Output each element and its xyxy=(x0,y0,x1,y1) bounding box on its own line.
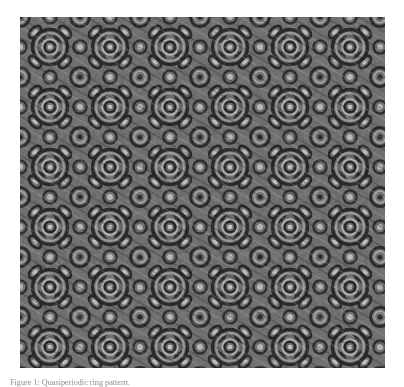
figure-caption: Figure 1: Quasiperiodic ring pattern. xyxy=(10,377,394,387)
quasiperiodic-ring-pattern-svg xyxy=(20,17,385,368)
figure-image xyxy=(20,17,385,368)
pattern-grain-overlay xyxy=(20,17,385,368)
page-canvas: Figure 1: Quasiperiodic ring pattern. xyxy=(0,0,404,387)
